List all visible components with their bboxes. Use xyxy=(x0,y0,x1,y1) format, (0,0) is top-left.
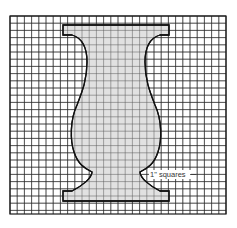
baluster-grid-pattern: 1" squares xyxy=(0,0,237,228)
pattern-diagram: 1" squares xyxy=(0,0,237,228)
scale-label: 1" squares xyxy=(149,170,196,179)
scale-label-text: 1" squares xyxy=(150,170,186,179)
